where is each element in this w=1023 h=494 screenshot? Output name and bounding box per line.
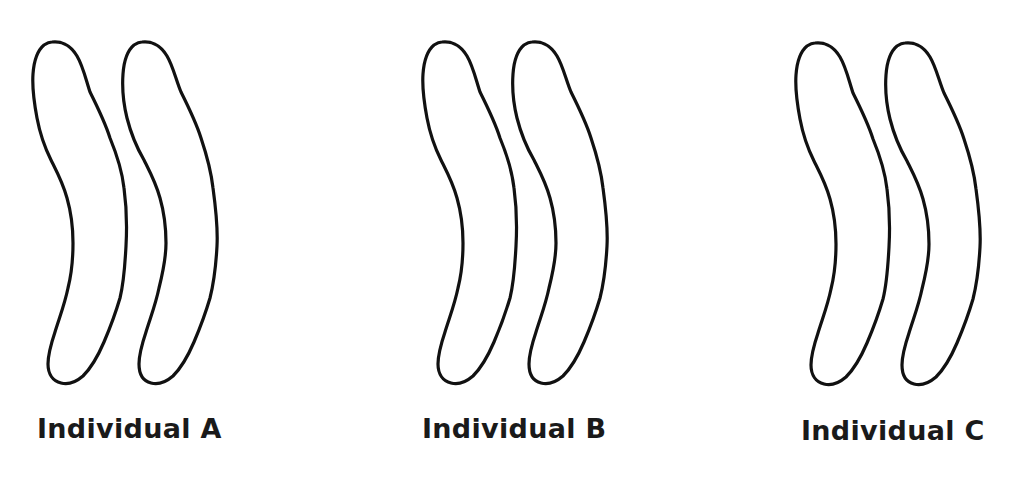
label-individual-a: Individual A <box>37 411 222 447</box>
label-individual-b: Individual B <box>422 411 606 447</box>
chromosome-c-1 <box>796 43 890 385</box>
individual-b-chromosome-pair <box>423 42 608 384</box>
diagram-canvas: Individual A Individual B Individual C <box>0 0 1023 494</box>
chromosome-a-1 <box>33 42 127 384</box>
chromosome-b-2 <box>513 42 608 384</box>
label-individual-c: Individual C <box>801 413 985 449</box>
chromosome-b-1 <box>423 42 517 384</box>
chromosome-c-2 <box>886 43 981 385</box>
chromosome-a-2 <box>123 42 218 384</box>
individual-c-chromosome-pair <box>796 43 981 385</box>
individual-a-chromosome-pair <box>33 42 218 384</box>
